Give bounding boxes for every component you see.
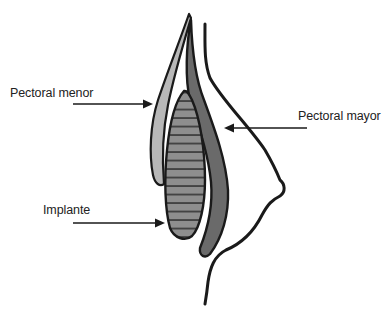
arrow-pectoral-mayor bbox=[224, 124, 307, 133]
label-pectoral-menor: Pectoral menor bbox=[10, 86, 93, 100]
label-pectoral-mayor: Pectoral mayor bbox=[298, 109, 381, 123]
arrow-implante bbox=[73, 219, 165, 228]
diagram-canvas bbox=[0, 0, 390, 316]
label-implante: Implante bbox=[43, 203, 90, 217]
arrow-pectoral-menor bbox=[73, 100, 153, 109]
